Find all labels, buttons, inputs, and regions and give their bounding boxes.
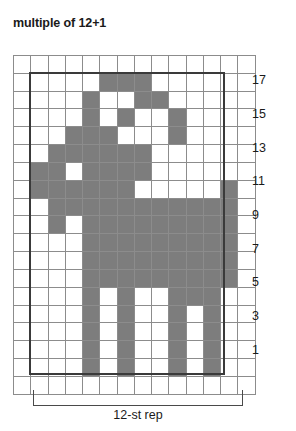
chart-cell-filled — [117, 341, 134, 359]
chart-cell-filled — [83, 341, 100, 359]
chart-cell-filled — [169, 359, 186, 377]
chart-cell-empty — [152, 127, 169, 145]
chart-cell-empty — [31, 341, 48, 359]
chart-cell-filled — [186, 216, 203, 234]
chart-cell-filled — [186, 252, 203, 270]
chart-cell-filled — [134, 91, 151, 109]
chart-row — [14, 341, 256, 359]
chart-cell-empty — [65, 305, 82, 323]
chart-cell-empty — [134, 287, 151, 305]
chart-cell-filled — [152, 252, 169, 270]
chart-row — [14, 145, 256, 163]
chart-row — [14, 252, 256, 270]
chart-cell-empty — [186, 56, 203, 74]
chart-cell-empty — [134, 323, 151, 341]
chart-row — [14, 91, 256, 109]
chart-cell-empty — [152, 341, 169, 359]
row-number-label: 1 — [252, 344, 259, 357]
row-number-label: 17 — [252, 74, 266, 87]
chart-cell-filled — [169, 252, 186, 270]
chart-cell-empty — [14, 73, 31, 91]
chart-cell-filled — [83, 287, 100, 305]
chart-row — [14, 323, 256, 341]
chart-cell-filled — [203, 287, 220, 305]
row-number-labels: 1715131197531 — [252, 55, 292, 375]
chart-cell-filled — [186, 287, 203, 305]
chart-cell-empty — [14, 252, 31, 270]
chart-cell-filled — [134, 145, 151, 163]
chart-cell-empty — [48, 341, 65, 359]
chart-cell-empty — [14, 56, 31, 74]
chart-row — [14, 198, 256, 216]
chart-cell-filled — [117, 162, 134, 180]
chart-cell-filled — [134, 198, 151, 216]
chart-cell-filled — [186, 234, 203, 252]
chart-cell-empty — [203, 73, 220, 91]
chart-cell-filled — [83, 234, 100, 252]
chart-cell-filled — [134, 269, 151, 287]
repeat-bracket — [33, 390, 243, 406]
chart-cell-filled — [169, 269, 186, 287]
chart-cell-empty — [221, 323, 238, 341]
row-number-label: 11 — [252, 175, 265, 188]
chart-cell-empty — [169, 162, 186, 180]
chart-cell-filled — [100, 269, 117, 287]
chart-cell-filled — [100, 162, 117, 180]
chart-cell-empty — [31, 305, 48, 323]
chart-cell-empty — [14, 376, 31, 394]
chart-cell-filled — [100, 234, 117, 252]
chart-cell-empty — [48, 56, 65, 74]
chart-cell-filled — [83, 323, 100, 341]
chart-row — [14, 216, 256, 234]
chart-cell-empty — [203, 127, 220, 145]
chart-cell-filled — [169, 287, 186, 305]
chart-cell-empty — [48, 287, 65, 305]
chart-cell-empty — [117, 91, 134, 109]
chart-cell-empty — [152, 180, 169, 198]
stitch-chart-grid — [13, 55, 256, 395]
chart-cell-filled — [169, 198, 186, 216]
repeat-caption: 12-st rep — [33, 408, 243, 422]
chart-cell-empty — [221, 359, 238, 377]
chart-cell-filled — [83, 91, 100, 109]
chart-row — [14, 287, 256, 305]
chart-row — [14, 180, 256, 198]
chart-cell-empty — [186, 162, 203, 180]
chart-cell-filled — [169, 305, 186, 323]
chart-cell-empty — [65, 234, 82, 252]
chart-cell-empty — [14, 323, 31, 341]
chart-cell-empty — [186, 73, 203, 91]
chart-cell-empty — [14, 162, 31, 180]
chart-cell-empty — [14, 145, 31, 163]
chart-cell-empty — [134, 180, 151, 198]
chart-cell-empty — [48, 109, 65, 127]
chart-cell-filled — [100, 73, 117, 91]
chart-cell-empty — [203, 109, 220, 127]
chart-cell-filled — [83, 162, 100, 180]
chart-cell-empty — [134, 305, 151, 323]
chart-cell-empty — [14, 180, 31, 198]
chart-cell-empty — [65, 73, 82, 91]
chart-cell-empty — [152, 323, 169, 341]
chart-cell-empty — [169, 56, 186, 74]
chart-cell-filled — [83, 198, 100, 216]
chart-cell-empty — [117, 56, 134, 74]
chart-cell-filled — [221, 269, 238, 287]
chart-cell-filled — [117, 234, 134, 252]
chart-cell-filled — [169, 127, 186, 145]
chart-cell-empty — [31, 91, 48, 109]
chart-cell-empty — [134, 341, 151, 359]
chart-cell-empty — [48, 359, 65, 377]
chart-cell-filled — [169, 341, 186, 359]
chart-cell-filled — [134, 73, 151, 91]
chart-cell-empty — [65, 341, 82, 359]
chart-cell-filled — [152, 198, 169, 216]
chart-cell-empty — [221, 305, 238, 323]
chart-cell-empty — [186, 91, 203, 109]
chart-cell-empty — [221, 287, 238, 305]
chart-cell-empty — [31, 323, 48, 341]
chart-cell-filled — [65, 180, 82, 198]
chart-cell-filled — [186, 269, 203, 287]
chart-cell-empty — [31, 145, 48, 163]
chart-cell-empty — [221, 56, 238, 74]
